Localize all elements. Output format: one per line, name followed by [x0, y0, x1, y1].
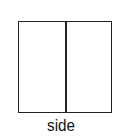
center-divider-line [65, 21, 67, 113]
side-label: side [3, 116, 119, 136]
